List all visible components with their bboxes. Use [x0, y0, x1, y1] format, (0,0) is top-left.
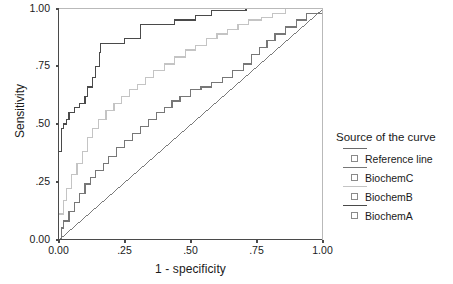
- roc-chart: 1 - specificity Sensitivity 0.00.25.50.7…: [0, 0, 453, 284]
- legend-item-label: Reference line: [365, 153, 433, 165]
- x-tick-label: .75: [237, 244, 277, 256]
- legend-item[interactable]: BiochemB: [333, 186, 453, 204]
- legend-row[interactable]: BiochemA: [333, 208, 453, 223]
- legend-item-label: BiochemB: [365, 191, 413, 203]
- legend-line-sample: [343, 205, 367, 206]
- x-tick-label: 1.00: [303, 244, 343, 256]
- legend-item-label: BiochemC: [365, 172, 413, 184]
- y-tick-label: .25: [10, 175, 50, 187]
- legend-row[interactable]: BiochemC: [333, 170, 453, 185]
- x-tick-label: 0.00: [39, 244, 79, 256]
- x-axis-title: 1 - specificity: [58, 262, 323, 276]
- y-tick-label: .50: [10, 117, 50, 129]
- legend-item[interactable]: Reference line: [333, 148, 453, 166]
- legend-swatch-icon: [351, 174, 358, 181]
- legend-item[interactable]: BiochemA: [333, 205, 453, 223]
- legend-row[interactable]: BiochemB: [333, 189, 453, 204]
- legend: Source of the curve Reference lineBioche…: [333, 131, 453, 223]
- y-tick-label: 0.00: [10, 233, 50, 245]
- legend-line-sample: [343, 167, 367, 168]
- y-tick-label: .75: [10, 59, 50, 71]
- legend-line-sample: [343, 148, 367, 149]
- legend-items: Reference lineBiochemCBiochemBBiochemA: [333, 148, 453, 223]
- x-tick-label: .25: [105, 244, 145, 256]
- legend-item-label: BiochemA: [365, 210, 413, 222]
- legend-swatch-icon: [351, 212, 358, 219]
- legend-line-sample: [343, 186, 367, 187]
- y-tick-label: 1.00: [10, 2, 50, 14]
- legend-swatch-icon: [351, 193, 358, 200]
- legend-swatch-icon: [351, 155, 358, 162]
- x-tick-label: .50: [171, 244, 211, 256]
- legend-row[interactable]: Reference line: [333, 151, 453, 166]
- legend-item[interactable]: BiochemC: [333, 167, 453, 185]
- legend-title: Source of the curve: [336, 131, 453, 143]
